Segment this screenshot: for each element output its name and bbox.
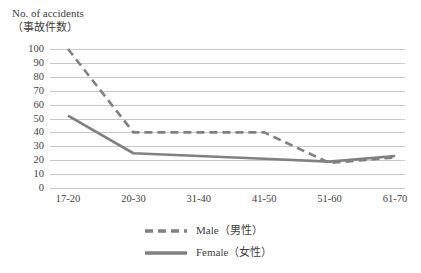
y-axis-tick-label: 90 bbox=[0, 58, 44, 68]
y-axis-tick-label: 80 bbox=[0, 72, 44, 82]
chart-legend: Male（男性）Female（女性） bbox=[0, 218, 421, 262]
y-axis-tick-label: 70 bbox=[0, 86, 44, 96]
legend-label: Female（女性） bbox=[196, 243, 272, 259]
legend-item: Male（男性） bbox=[0, 218, 421, 240]
x-axis-tick-label: 20-30 bbox=[121, 193, 146, 205]
y-axis-tick-label: 100 bbox=[0, 44, 44, 54]
x-axis-tick-labels: 17-2020-3031-4041-5051-6061-70 bbox=[50, 193, 405, 209]
y-axis-tick-label: 10 bbox=[0, 169, 44, 179]
y-axis-tick-label: 60 bbox=[0, 100, 44, 110]
series-line bbox=[68, 49, 395, 163]
y-axis-tick-label: 0 bbox=[0, 183, 44, 193]
x-axis-tick-label: 51-60 bbox=[317, 193, 342, 205]
accidents-by-age-line-chart: No. of accidents （事故件数） 1009080706050403… bbox=[0, 0, 421, 273]
x-axis-tick-label: 17-20 bbox=[56, 193, 81, 205]
y-axis-tick-label: 50 bbox=[0, 114, 44, 124]
y-axis-tick-label: 30 bbox=[0, 141, 44, 151]
x-axis-tick-label: 41-50 bbox=[252, 193, 277, 205]
y-axis-tick-label: 40 bbox=[0, 127, 44, 137]
y-axis-tick-labels: 1009080706050403020100 bbox=[0, 49, 44, 188]
y-axis-title: No. of accidents （事故件数） bbox=[12, 6, 84, 34]
x-axis-tick-label: 31-40 bbox=[187, 193, 212, 205]
legend-item: Female（女性） bbox=[0, 240, 421, 262]
legend-label: Male（男性） bbox=[196, 221, 263, 237]
gridline bbox=[50, 188, 405, 189]
y-axis-title-line-1: No. of accidents bbox=[12, 6, 84, 20]
plot-area bbox=[50, 49, 405, 188]
legend-swatch bbox=[145, 245, 187, 257]
x-axis-tick-label: 61-70 bbox=[383, 193, 408, 205]
y-axis-title-line-2: （事故件数） bbox=[12, 20, 84, 34]
legend-swatch bbox=[145, 223, 187, 235]
series-line bbox=[68, 116, 395, 162]
y-axis-tick-label: 20 bbox=[0, 155, 44, 165]
series-lines bbox=[50, 49, 405, 188]
